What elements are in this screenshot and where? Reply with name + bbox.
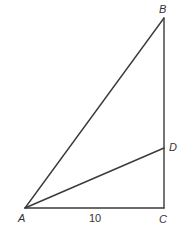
- segment-ad: [25, 148, 164, 208]
- length-label-ac: 10: [89, 212, 101, 224]
- vertex-label-b: B: [159, 3, 166, 15]
- triangle-diagram: B D A C 10: [0, 0, 186, 237]
- vertex-label-a: A: [17, 212, 25, 224]
- vertex-label-c: C: [159, 213, 167, 225]
- segment-ab: [25, 18, 164, 208]
- point-label-d: D: [169, 141, 177, 153]
